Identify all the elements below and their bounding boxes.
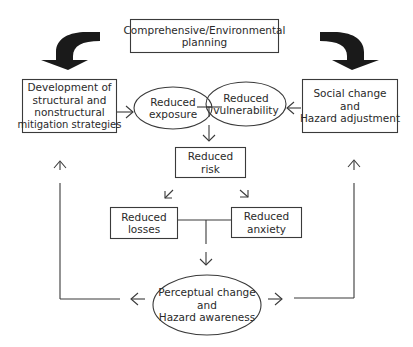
perceptual-label-line-3: Hazard awareness [159,311,255,324]
exposure-label-line-2: exposure [149,108,197,121]
exposure-node: Reduced exposure [134,87,212,129]
development-label-line-4: mitigation strategies [18,119,122,132]
anxiety-label-line-1: Reduced [244,210,290,223]
hazard-mitigation-diagram: Comprehensive/Environmental planning Dev… [0,0,413,347]
social-label-line-3: Hazard adjustment [300,112,400,125]
anxiety-label-line-2: anxiety [247,223,286,236]
vulnerability-label-line-1: Reduced [223,92,269,105]
vulnerability-node: Reduced vulnerability [206,82,286,126]
social-node: Social change and Hazard adjustment [302,79,398,133]
development-label-line-3: nonstructural [34,106,105,119]
development-label-line-2: structural and [33,94,107,107]
losses-node: Reduced losses [110,207,178,239]
risk-node: Reduced risk [175,147,246,178]
right-bold-curved-arrow [320,32,379,70]
perceptual-label-line-2: and [197,299,217,312]
social-label-line-2: and [340,100,360,113]
development-node: Development of structural and nonstructu… [22,79,117,133]
anxiety-node: Reduced anxiety [231,207,302,238]
planning-node: Comprehensive/Environmental planning [130,19,279,53]
perceptual-node: Perceptual change and Hazard awareness [153,275,261,335]
planning-label-line-2: planning [182,36,228,49]
planning-label-line-1: Comprehensive/Environmental [124,24,286,37]
risk-label-line-2: risk [201,163,220,176]
left-bold-curved-arrow [41,32,100,70]
risk-label-line-1: Reduced [188,150,234,163]
social-label-line-1: Social change [313,87,386,100]
exposure-label-line-1: Reduced [150,96,196,109]
losses-label-line-2: losses [128,223,160,236]
perceptual-label-line-1: Perceptual change [158,286,256,299]
losses-label-line-1: Reduced [121,211,167,224]
development-label-line-1: Development of [27,81,111,94]
vulnerability-label-line-2: vulnerability [213,104,278,117]
